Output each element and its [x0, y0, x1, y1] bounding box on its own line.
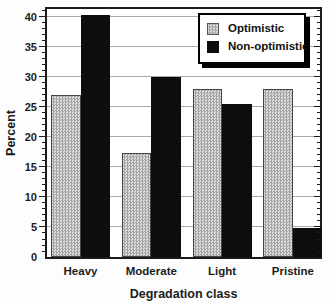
y-tick-label-40: 40 [25, 11, 37, 22]
minor-tick-right-3 [317, 239, 320, 240]
y-tick-label-10: 10 [25, 191, 37, 202]
minor-tick-right-21 [317, 130, 320, 131]
x-axis-category-labels: HeavyModerateLightPristine [45, 266, 322, 281]
minor-tick-right-38 [317, 28, 320, 29]
major-tick-right-20 [314, 136, 320, 137]
legend-item-non-optimistic: Non-optimistic [207, 38, 298, 56]
minor-tick-right-13 [317, 178, 320, 179]
minor-tick-right-7 [317, 214, 320, 215]
minor-tick-right-34 [317, 52, 320, 53]
y-tick-label-5: 5 [31, 221, 37, 232]
major-tick-right-15 [314, 166, 320, 167]
minor-tick-right-41 [317, 10, 320, 11]
minor-tick-right-29 [317, 82, 320, 83]
minor-tick-right-2 [317, 245, 320, 246]
major-tick-right-5 [314, 226, 320, 227]
major-tick-right-10 [314, 196, 320, 197]
major-tick-right-40 [314, 16, 320, 17]
x-category-label-heavy: Heavy [64, 266, 98, 278]
minor-tick-right-27 [317, 94, 320, 95]
x-axis-title: Degradation class [45, 287, 322, 301]
x-category-label-pristine: Pristine [272, 266, 314, 278]
minor-tick-right-19 [317, 142, 320, 143]
legend-label-optimistic: Optimistic [228, 23, 284, 35]
legend-label-non-optimistic: Non-optimistic [228, 41, 309, 53]
minor-tick-right-8 [317, 208, 320, 209]
bar-chart-figure: Percent 0510152025303540 Optimistic Non-… [0, 0, 330, 304]
optimistic-swatch-icon [207, 23, 219, 35]
minor-tick-right-17 [317, 154, 320, 155]
y-tick-label-20: 20 [25, 131, 37, 142]
y-tick-label-35: 35 [25, 41, 37, 52]
major-tick-right-35 [314, 46, 320, 47]
minor-tick-right-16 [317, 160, 320, 161]
non-optimistic-swatch-icon [207, 41, 219, 53]
y-tick-label-15: 15 [25, 161, 37, 172]
minor-tick-right-14 [317, 172, 320, 173]
minor-tick-right-37 [317, 34, 320, 35]
y-tick-label-30: 30 [25, 71, 37, 82]
y-tick-label-25: 25 [25, 101, 37, 112]
legend-box: Optimistic Non-optimistic [198, 13, 306, 64]
minor-tick-right-23 [317, 118, 320, 119]
minor-tick-right-18 [317, 148, 320, 149]
x-category-label-moderate: Moderate [126, 266, 177, 278]
y-axis-tick-labels: 0510152025303540 [0, 7, 40, 259]
minor-tick-right-36 [317, 40, 320, 41]
minor-tick-right-11 [317, 190, 320, 191]
minor-tick-right-24 [317, 112, 320, 113]
minor-tick-right-26 [317, 100, 320, 101]
major-tick-right-30 [314, 76, 320, 77]
legend-item-optimistic: Optimistic [207, 20, 298, 38]
minor-tick-right-4 [317, 232, 320, 233]
y-tick-label-0: 0 [31, 252, 37, 263]
minor-tick-right-22 [317, 124, 320, 125]
minor-tick-right-28 [317, 88, 320, 89]
minor-tick-right-1 [317, 251, 320, 252]
minor-tick-right-33 [317, 58, 320, 59]
x-category-label-light: Light [208, 266, 236, 278]
minor-tick-right-6 [317, 220, 320, 221]
minor-tick-right-39 [317, 22, 320, 23]
major-tick-right-25 [314, 106, 320, 107]
minor-tick-right-31 [317, 70, 320, 71]
minor-tick-right-32 [317, 64, 320, 65]
minor-tick-right-9 [317, 202, 320, 203]
minor-tick-right-12 [317, 184, 320, 185]
